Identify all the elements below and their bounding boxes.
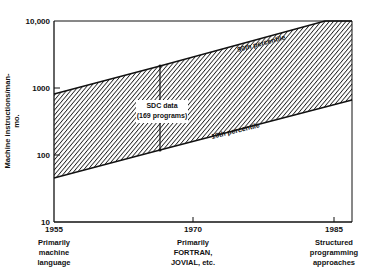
y-tick-100: 100: [37, 151, 51, 160]
y-axis-label: Machine instructions/man-mo.: [3, 71, 21, 171]
category-1970: Primarily FORTRAN, JOVIAL, etc.: [158, 238, 228, 268]
x-tick-1985: 1985: [325, 225, 343, 234]
x-tick-1955: 1955: [45, 225, 63, 234]
category-1955: Primarily machine language: [28, 238, 80, 268]
sdc-title: SDC data: [136, 101, 188, 111]
x-tick-1970: 1970: [184, 225, 202, 234]
y-tick-1000: 1000: [32, 84, 50, 93]
percentile-band: [54, 21, 352, 178]
sdc-count: (169 programs): [136, 111, 188, 121]
y-tick-10000: 10,000: [26, 17, 51, 26]
category-1985: Structured programming approaches: [298, 238, 370, 268]
sdc-data-label: SDC data (169 programs): [136, 100, 188, 123]
